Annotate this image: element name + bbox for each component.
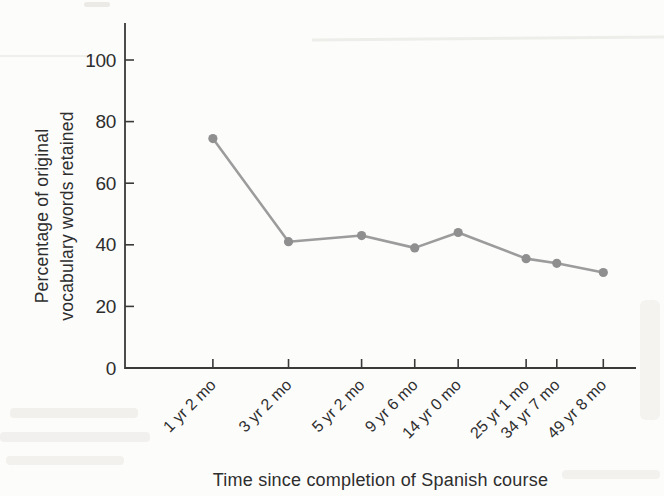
data-point-marker <box>208 134 217 143</box>
x-tick-label: 5 yr 2 mo <box>309 376 368 435</box>
y-axis-title-line2: vocabulary words retained <box>55 66 80 366</box>
retention-line-chart: 0204060801001 yr 2 mo3 yr 2 mo5 yr 2 mo9… <box>0 0 664 496</box>
y-tick-label: 100 <box>85 50 116 71</box>
data-point-marker <box>522 254 531 263</box>
data-point-marker <box>357 231 366 240</box>
y-tick-label: 60 <box>95 173 116 194</box>
data-point-marker <box>410 243 419 252</box>
y-axis-title-line1: Percentage of original <box>30 66 55 366</box>
axis-lines <box>125 23 636 368</box>
y-axis-title: Percentage of original vocabulary words … <box>30 66 80 366</box>
data-point-marker <box>454 228 463 237</box>
x-tick-label: 1 yr 2 mo <box>160 376 219 435</box>
y-tick-label: 40 <box>95 234 116 255</box>
retention-line <box>213 139 603 273</box>
data-point-marker <box>599 268 608 277</box>
y-tick-label: 20 <box>95 296 116 317</box>
data-point-marker <box>284 237 293 246</box>
book-figure-page: 0204060801001 yr 2 mo3 yr 2 mo5 yr 2 mo9… <box>0 0 664 496</box>
y-tick-label: 0 <box>106 358 116 379</box>
data-point-marker <box>552 259 561 268</box>
x-tick-label: 3 yr 2 mo <box>235 376 294 435</box>
y-tick-label: 80 <box>95 111 116 132</box>
x-axis-title: Time since completion of Spanish course <box>125 470 636 491</box>
